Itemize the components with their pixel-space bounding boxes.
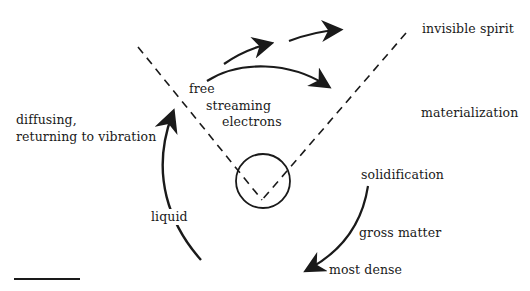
label-returning-to-vibration: returning to vibration (16, 129, 156, 145)
label-solidification: solidification (361, 167, 444, 183)
label-streaming: streaming (206, 98, 271, 114)
diagram-canvas (0, 0, 530, 291)
label-materialization: materialization (421, 105, 518, 121)
arrow-rising-arc (163, 115, 201, 260)
label-liquid: liquid (150, 209, 189, 225)
arrow-upper-short-2 (289, 30, 337, 41)
label-free: free (189, 81, 215, 97)
label-invisible-spirit: invisible spirit (422, 21, 514, 37)
center-circle (236, 154, 290, 208)
arrow-upper-long (207, 66, 326, 85)
label-diffusing: diffusing, (16, 112, 77, 128)
label-gross-matter: gross matter (359, 225, 441, 241)
arrow-upper-short-1 (224, 44, 268, 64)
label-electrons: electrons (222, 114, 282, 130)
label-most-dense: most dense (329, 262, 402, 278)
